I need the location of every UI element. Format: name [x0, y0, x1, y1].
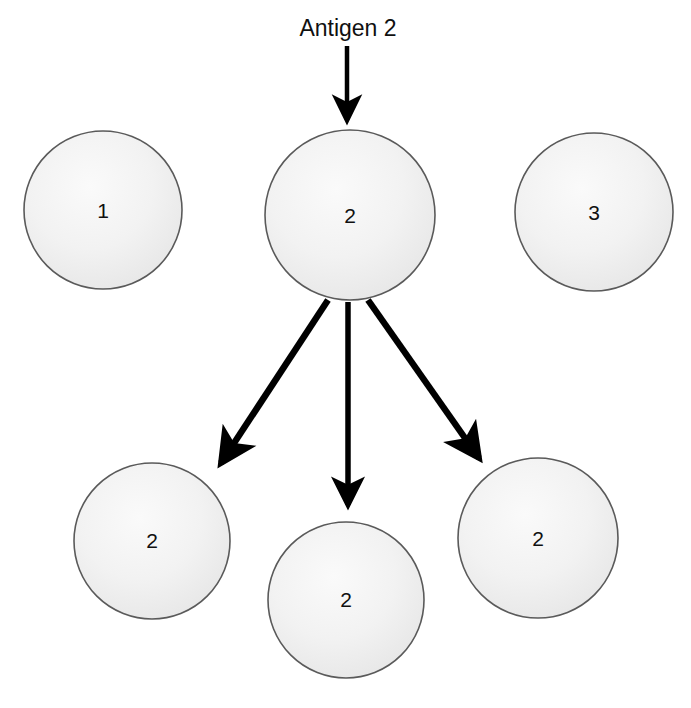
antigen-clonal-selection-diagram: Antigen 2 1 2 3 — [0, 0, 691, 708]
diagram-canvas: Antigen 2 1 2 3 — [0, 0, 691, 708]
cell-clone-right-label: 2 — [532, 527, 544, 550]
cell-clone-left-label: 2 — [146, 529, 158, 552]
cell-3-label: 3 — [588, 201, 600, 224]
cell-1: 1 — [24, 131, 182, 289]
antigen-label: Antigen 2 — [299, 15, 396, 41]
cell-clone-center-label: 2 — [340, 588, 352, 611]
cell-clone-right: 2 — [458, 458, 618, 618]
division-arrow-right — [368, 300, 479, 458]
cell-1-label: 1 — [97, 199, 109, 222]
cell-2: 2 — [265, 130, 435, 300]
division-arrows — [221, 300, 479, 505]
cell-clone-center: 2 — [268, 522, 424, 678]
cell-2-label: 2 — [344, 204, 356, 227]
cell-clone-left: 2 — [74, 463, 230, 619]
cell-3: 3 — [515, 133, 673, 291]
division-arrow-left — [221, 300, 328, 463]
top-row-cells: 1 2 3 — [24, 130, 673, 300]
